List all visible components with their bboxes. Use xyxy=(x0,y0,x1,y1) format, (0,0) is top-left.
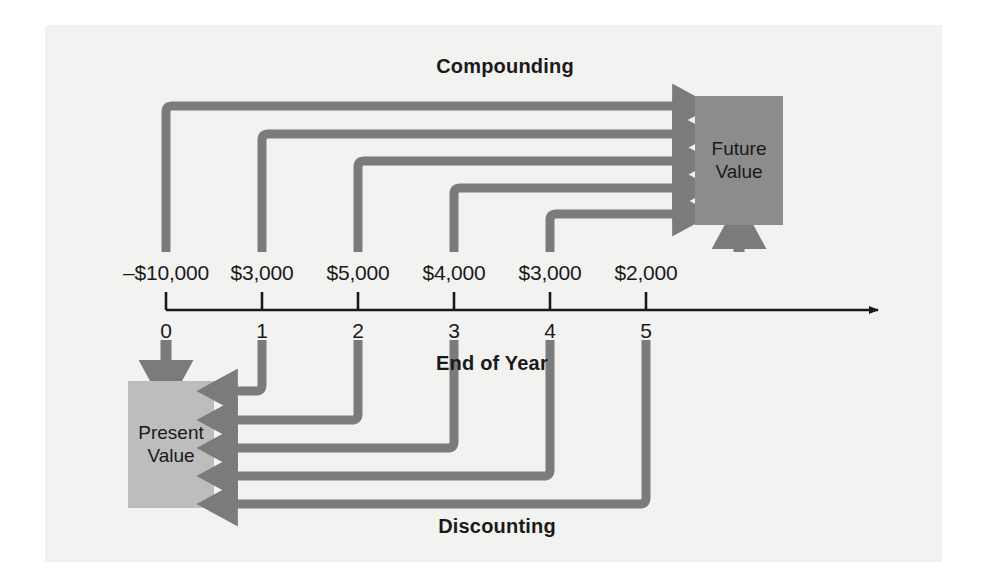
year-label-0: 0 xyxy=(160,320,172,341)
year-label-2: 2 xyxy=(352,320,364,341)
compounding-arrow-year-4 xyxy=(550,214,682,252)
present-value-line-1: Present xyxy=(138,422,203,443)
compounding-arrow-year-1 xyxy=(262,134,682,252)
year-label-5: 5 xyxy=(640,320,652,341)
present-value-line-2: Value xyxy=(147,446,194,467)
timeline-ticks xyxy=(166,292,646,310)
future-value-line-2: Value xyxy=(715,162,762,183)
axis-title: End of Year xyxy=(436,353,548,373)
cashflow-label-year-3: $4,000 xyxy=(422,262,485,283)
discounting-arrow-year-2 xyxy=(228,340,358,420)
year-label-4: 4 xyxy=(544,320,556,341)
year-label-3: 3 xyxy=(448,320,460,341)
discounting-arrow-year-1 xyxy=(228,340,262,391)
cashflow-label-year-1: $3,000 xyxy=(230,262,293,283)
cashflow-label-year-2: $5,000 xyxy=(326,262,389,283)
year-label-1: 1 xyxy=(256,320,268,341)
present-value-box-text: Present Value xyxy=(128,381,214,508)
cashflow-label-year-4: $3,000 xyxy=(518,262,581,283)
compounding-arrow-year-2 xyxy=(358,161,682,252)
compounding-arrow-group xyxy=(166,106,682,252)
discounting-title: Discounting xyxy=(438,516,556,536)
timeline-figure: Compounding Discounting End of Year –$10… xyxy=(0,0,982,587)
cashflow-label-year-5: $2,000 xyxy=(614,262,677,283)
future-value-line-1: Future xyxy=(712,138,767,159)
cashflow-label-year-0: –$10,000 xyxy=(123,262,209,283)
compounding-title: Compounding xyxy=(436,56,574,76)
future-value-box-text: Future Value xyxy=(695,96,783,225)
compounding-arrow-year-0 xyxy=(166,106,682,252)
compounding-arrow-year-3 xyxy=(454,188,682,252)
